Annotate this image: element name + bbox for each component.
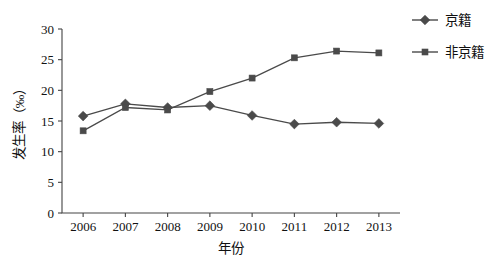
legend-marker-京籍 [420,15,430,25]
x-axis-ticks: 20062007200820092010201120122013 [70,213,392,234]
data-point-非京籍-2006 [80,128,86,134]
chart-legend: 京籍非京籍 [412,12,484,60]
data-point-非京籍-2013 [376,50,382,56]
y-tick-label: 15 [41,114,54,129]
data-point-非京籍-2011 [291,55,297,61]
x-tick-label: 2008 [155,219,181,234]
legend-label-非京籍: 非京籍 [445,44,484,60]
data-point-非京籍-2008 [165,107,171,113]
series-京籍 [78,99,383,129]
data-point-京籍-2011 [290,119,300,129]
data-series [78,48,383,134]
legend-marker-非京籍 [422,49,428,55]
x-tick-label: 2010 [239,219,265,234]
axes [62,29,400,213]
data-point-京籍-2013 [374,119,384,129]
x-tick-label: 2009 [197,219,223,234]
y-tick-label: 25 [41,52,54,67]
y-axis-ticks: 051015202530 [41,22,62,221]
x-tick-label: 2011 [282,219,308,234]
x-tick-label: 2007 [112,219,139,234]
y-tick-label: 5 [48,175,55,190]
y-axis-title: 发生率（‰） [11,82,27,161]
chart-figure: 051015202530 200620072008200920102011201… [0,0,496,273]
data-point-非京籍-2012 [334,48,340,54]
data-point-京籍-2010 [247,111,257,121]
legend-label-京籍: 京籍 [445,12,471,28]
series-line-非京籍 [83,51,379,131]
data-point-非京籍-2009 [207,89,213,95]
legend-item-非京籍[interactable]: 非京籍 [412,44,484,60]
y-tick-label: 10 [41,144,54,159]
line-chart: 051015202530 200620072008200920102011201… [0,0,496,273]
y-tick-label: 0 [48,206,55,221]
legend-item-京籍[interactable]: 京籍 [412,12,471,28]
x-axis-title: 年份 [218,241,245,256]
y-tick-label: 20 [41,83,54,98]
x-tick-label: 2013 [366,219,392,234]
axis-lines [62,29,400,213]
data-point-非京籍-2007 [122,105,128,111]
data-point-京籍-2009 [205,101,215,111]
data-point-非京籍-2010 [249,75,255,81]
data-point-京籍-2012 [332,117,342,127]
y-tick-label: 30 [41,22,54,37]
data-point-京籍-2006 [78,111,88,121]
x-tick-label: 2012 [324,219,350,234]
x-tick-label: 2006 [70,219,97,234]
